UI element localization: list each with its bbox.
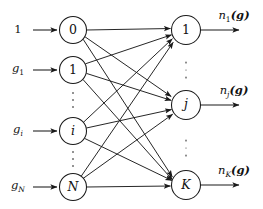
output-signal-nK-argument: (g)	[231, 163, 250, 177]
input-signal-gi-subscript: i	[20, 129, 22, 138]
output-signal-n1-argument: (g)	[231, 8, 250, 22]
input-node-N-label: N	[68, 181, 79, 194]
input-signal-label-gi: gi	[13, 124, 23, 138]
output-node-1-label: 1	[182, 24, 190, 37]
input-node-i-label: i	[71, 125, 75, 138]
edge-1-to-1	[85, 35, 171, 64]
input-column-ellipsis-lower	[72, 151, 75, 167]
edge-i-to-K	[85, 139, 172, 181]
output-column-ellipsis-upper	[185, 62, 188, 79]
input-signal-label-bias: 1	[14, 24, 21, 36]
output-node-j-label: j	[184, 98, 188, 111]
output-node-K-label: K	[181, 179, 190, 192]
input-arrow-group	[33, 30, 57, 187]
input-signal-gN-subscript: N	[18, 185, 25, 194]
edge-i-to-1	[83, 39, 172, 123]
edge-0-to-1	[87, 29, 171, 31]
output-arrow-group	[201, 30, 239, 185]
input-signal-label-g1: g1	[12, 63, 24, 77]
output-signal-nj-argument: (g)	[229, 83, 248, 97]
input-node-1-label: 1	[69, 64, 77, 77]
edge-i-to-j	[86, 110, 171, 129]
edge-1-to-j	[86, 73, 171, 100]
output-column-ellipsis-lower	[185, 140, 188, 157]
input-node-0-label: 0	[69, 24, 77, 37]
edge-N-to-K	[87, 186, 171, 187]
edge-1-to-K	[83, 80, 173, 181]
output-signal-label-nK: nK(g)	[218, 165, 250, 179]
input-column-ellipsis-upper	[72, 92, 75, 108]
input-signal-label-gN: gN	[11, 180, 25, 194]
input-signal-bias-base: 1	[14, 22, 21, 36]
output-signal-label-n1: n1(g)	[218, 10, 249, 24]
edge-0-to-j	[85, 37, 172, 97]
input-signal-g1-subscript: 1	[19, 68, 24, 77]
output-signal-label-nj: nj(g)	[220, 85, 249, 99]
neural-network-figure: 0 1 i N 1 j K 1 g1 gi gN n1(g) nj(g) nK(…	[0, 0, 263, 209]
edge-N-to-j	[83, 114, 173, 178]
